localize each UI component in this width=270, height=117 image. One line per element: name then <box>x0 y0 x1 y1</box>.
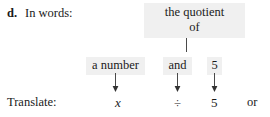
math-number-five: 5 <box>211 95 218 111</box>
math-variable-x: x <box>115 95 121 111</box>
translate-label: Translate: <box>7 95 57 110</box>
vertical-connector-line <box>186 38 187 52</box>
math-alternative-connector: or <box>247 95 257 110</box>
arrow-down-icon-a-number <box>111 73 120 93</box>
exercise-item-label: d. <box>7 6 17 21</box>
arrow-down-icon-five <box>210 73 219 93</box>
phrase-the-quotient-of: the quotient of <box>144 3 245 38</box>
in-words-label: In words: <box>25 6 73 21</box>
math-division-operator: ÷ <box>174 95 181 111</box>
phrase-quotient-line-2: of <box>147 20 242 35</box>
arrow-down-icon-and <box>173 73 182 93</box>
exercise-diagram: d. In words: Translate: the quotient of … <box>0 0 270 117</box>
phrase-quotient-line-1: the quotient <box>147 5 242 20</box>
